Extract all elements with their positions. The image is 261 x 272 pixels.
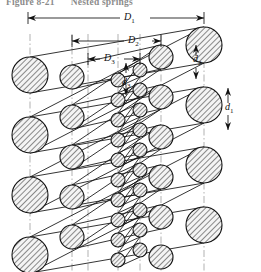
- middle-coil-right-1: [149, 85, 173, 109]
- middle-coil-left-0: [60, 65, 84, 89]
- middle-coil-right-2: [149, 125, 173, 149]
- inner-coil-right-6: [133, 183, 147, 197]
- outer-coil-right-2: [186, 147, 222, 183]
- inner-coil-right-1: [133, 83, 147, 97]
- figure-caption-text: Nested springs: [71, 0, 133, 7]
- inner-coil-right-2: [133, 103, 147, 117]
- outer-coil-right-0: [186, 27, 222, 63]
- inner-coil-right-7: [133, 203, 147, 217]
- inner-coil-right-3: [133, 123, 147, 137]
- middle-coil-left-4: [60, 225, 84, 249]
- dimension-label-D2: D2: [128, 34, 139, 48]
- figure-caption: Figure 8-21Nested springs: [6, 0, 133, 7]
- inner-coil-left-7: [111, 213, 125, 227]
- middle-coil-right-3: [149, 165, 173, 189]
- outer-coil-left-1: [12, 117, 48, 153]
- middle-coil-left-3: [60, 185, 84, 209]
- inner-coil-left-5: [111, 173, 125, 187]
- inner-coil-left-8: [111, 233, 125, 247]
- figure-caption-number: Figure 8-21: [6, 0, 55, 7]
- middle-coil-left-2: [60, 145, 84, 169]
- dimension-label-d2: d2: [193, 53, 202, 67]
- middle-coil-right-0: [149, 45, 173, 69]
- outer-coil-left-0: [12, 57, 48, 93]
- outer-coil-right-3: [186, 207, 222, 243]
- middle-coil-right-5: [149, 245, 173, 269]
- inner-coil-left-4: [111, 153, 125, 167]
- inner-coil-right-0: [133, 63, 147, 77]
- inner-coil-right-8: [133, 223, 147, 237]
- inner-coil-right-9: [133, 243, 147, 257]
- outer-coil-left-2: [12, 177, 48, 213]
- dimension-label-d3: d3: [122, 76, 131, 90]
- middle-coil-right-4: [149, 205, 173, 229]
- outer-coil-left-3: [12, 237, 48, 272]
- middle-coil-left-1: [60, 105, 84, 129]
- inner-coil-left-2: [111, 113, 125, 127]
- figure-nested-springs: Figure 8-21Nested springs D1 D2 D3 d3: [0, 0, 261, 272]
- dimension-label-D3: D3: [104, 52, 115, 66]
- inner-coil-right-5: [133, 163, 147, 177]
- dimension-label-d1: d1: [225, 101, 234, 115]
- inner-coil-left-1: [111, 93, 125, 107]
- inner-coil-left-3: [111, 133, 125, 147]
- outer-coil-right-1: [186, 87, 222, 123]
- inner-coil-left-6: [111, 193, 125, 207]
- inner-coil-left-9: [111, 253, 125, 267]
- dimension-label-D1: D1: [124, 11, 135, 25]
- inner-coil-right-4: [133, 143, 147, 157]
